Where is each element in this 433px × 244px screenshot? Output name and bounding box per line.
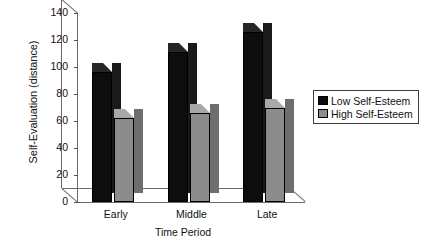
y-axis-tick-mark (74, 40, 78, 41)
bar-front-face (92, 72, 112, 202)
legend-label-low: Low Self-Esteem (331, 95, 410, 107)
y-axis-tick-mark (74, 94, 78, 95)
y-axis-tick-mark (74, 175, 78, 176)
bar-late-low (243, 32, 263, 202)
bar-side-face (210, 104, 219, 193)
legend-item-high: High Self-Esteem (318, 107, 413, 120)
bar-front-face (168, 52, 188, 202)
legend-swatch-high-icon (318, 109, 328, 118)
bar-top-face (190, 104, 210, 113)
chart-legend: Low Self-Esteem High Self-Esteem (313, 90, 419, 124)
x-axis-tick-label: Early (81, 208, 151, 220)
legend-item-low: Low Self-Esteem (318, 94, 413, 107)
bar-top-face (168, 43, 188, 52)
axis-frame-line (78, 202, 305, 203)
legend-swatch-low-icon (318, 96, 328, 105)
bar-early-low (92, 72, 112, 202)
y-axis-tick-label: 0 (38, 196, 68, 207)
y-axis-tick-mark (74, 202, 78, 203)
bar-top-face (92, 63, 112, 72)
bar-middle-low (168, 52, 188, 202)
y-axis-tick-label: 20 (38, 169, 68, 180)
x-axis-tick-label: Middle (157, 208, 227, 220)
bar-early-high (114, 118, 134, 202)
y-axis-tick-mark (74, 67, 78, 68)
bar-front-face (114, 118, 134, 202)
x-axis-title: Time Period (118, 226, 248, 238)
bar-top-face (243, 23, 263, 32)
bar-late-high (265, 108, 285, 203)
bar-front-face (265, 108, 285, 203)
legend-label-high: High Self-Esteem (331, 108, 413, 120)
bar-chart-figure: Self-Evaluation (distance) Time Period 0… (0, 0, 433, 244)
y-axis-tick-label: 100 (38, 61, 68, 72)
y-axis-tick-label: 120 (38, 34, 68, 45)
bar-middle-high (190, 113, 210, 202)
bar-side-face (285, 99, 294, 194)
bar-front-face (243, 32, 263, 202)
y-axis-tick-label: 40 (38, 142, 68, 153)
y-axis-tick-mark (74, 13, 78, 14)
bar-front-face (190, 113, 210, 202)
bar-side-face (134, 109, 143, 193)
bar-top-face (114, 109, 134, 118)
x-axis-tick-label: Late (232, 208, 302, 220)
y-axis-tick-label: 60 (38, 115, 68, 126)
bar-top-face (265, 99, 285, 108)
y-axis-tick-mark (74, 148, 78, 149)
y-axis-tick-label: 80 (38, 88, 68, 99)
axis-frame-line (77, 13, 78, 202)
y-axis-tick-label: 140 (38, 7, 68, 18)
y-axis-tick-mark (74, 121, 78, 122)
